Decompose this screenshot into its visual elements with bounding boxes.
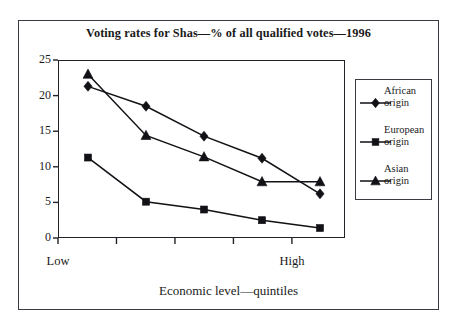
y-axis-tick-label: 0 <box>17 230 51 245</box>
data-point-marker-square <box>259 217 266 224</box>
figure-container: Voting rates for Shas—% of all qualified… <box>0 0 457 330</box>
y-axis-tick-label: 10 <box>17 159 51 174</box>
y-axis-tick-label: 5 <box>17 194 51 209</box>
legend-item-diamond[interactable]: Africanorigin <box>356 85 433 119</box>
data-point-marker-square <box>372 139 379 146</box>
x-axis-tick-label: Low <box>28 254 88 269</box>
y-axis-tick-label: 20 <box>17 88 51 103</box>
data-point-marker-diamond <box>258 153 266 163</box>
data-point-marker-diamond <box>200 131 208 141</box>
legend-item-square[interactable]: Europeanorigin <box>356 124 433 158</box>
legend-swatch-diamond <box>359 96 392 110</box>
data-series-layer <box>83 69 325 231</box>
data-point-marker-square <box>143 198 150 205</box>
y-axis-tick-label: 15 <box>17 123 51 138</box>
series-line <box>88 158 320 228</box>
data-point-marker-triangle <box>83 69 93 78</box>
data-point-marker-diamond <box>142 101 150 111</box>
y-axis-ticks <box>53 60 58 238</box>
chart-legend: AfricanoriginEuropeanoriginAsianorigin <box>355 79 432 200</box>
y-axis-tick-label: 25 <box>17 52 51 67</box>
data-point-marker-diamond <box>84 81 92 91</box>
data-point-marker-square <box>201 206 208 213</box>
legend-item-triangle[interactable]: Asianorigin <box>356 163 433 197</box>
data-point-marker-diamond <box>316 189 324 199</box>
legend-label-line1: Asian <box>384 163 430 175</box>
legend-label-line1: African <box>384 85 430 97</box>
series-square <box>85 154 324 231</box>
legend-swatch-triangle <box>359 174 392 188</box>
legend-swatch-square <box>359 135 392 149</box>
x-axis-tick-label: High <box>262 254 322 269</box>
data-point-marker-diamond <box>372 98 380 108</box>
x-axis-title: Economic level—quintiles <box>18 283 439 299</box>
data-point-marker-square <box>85 154 92 161</box>
series-triangle <box>83 69 325 186</box>
x-axis-ticks <box>58 238 292 244</box>
data-point-marker-square <box>317 225 324 232</box>
series-line <box>88 74 320 182</box>
legend-label-line1: European <box>384 124 430 136</box>
